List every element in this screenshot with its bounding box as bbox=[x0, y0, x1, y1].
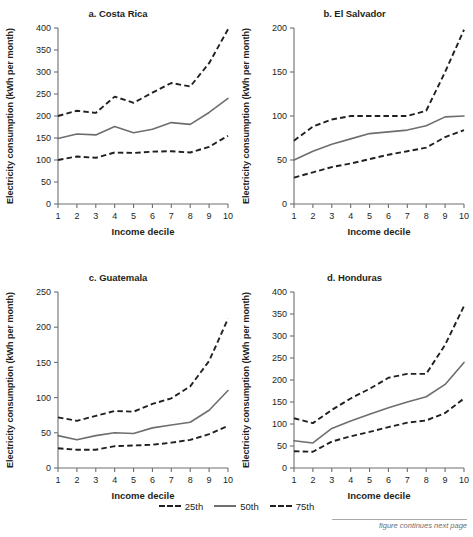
series-line-50th bbox=[294, 116, 464, 160]
y-axis-title: Electricity consumption (kWh per month) bbox=[5, 28, 15, 204]
y-tick-label: 0 bbox=[282, 463, 287, 473]
x-tick-label: 6 bbox=[386, 211, 391, 221]
x-tick-label: 9 bbox=[443, 475, 448, 485]
x-tick-label: 7 bbox=[405, 211, 410, 221]
x-tick-label: 4 bbox=[112, 475, 117, 485]
y-tick-label: 200 bbox=[272, 23, 287, 33]
series-line-75th bbox=[294, 30, 464, 141]
panel-plot: 05010015020025012345678910Income decileE… bbox=[0, 282, 236, 524]
y-tick-label: 0 bbox=[46, 199, 51, 209]
x-tick-label: 5 bbox=[367, 211, 372, 221]
x-tick-label: 4 bbox=[112, 211, 117, 221]
y-tick-label: 350 bbox=[272, 309, 287, 319]
footer-note: figure continues next page bbox=[0, 521, 467, 530]
y-tick-label: 150 bbox=[36, 358, 51, 368]
y-tick-label: 200 bbox=[36, 322, 51, 332]
legend-dash-line-icon bbox=[159, 505, 181, 507]
x-tick-label: 3 bbox=[329, 211, 334, 221]
y-tick-label: 100 bbox=[272, 419, 287, 429]
y-tick-label: 200 bbox=[36, 111, 51, 121]
y-tick-label: 50 bbox=[41, 428, 51, 438]
y-axis-title: Electricity consumption (kWh per month) bbox=[5, 292, 15, 468]
legend-item-50th: 50th bbox=[214, 501, 259, 512]
y-tick-label: 250 bbox=[36, 287, 51, 297]
x-tick-label: 6 bbox=[150, 211, 155, 221]
series-line-50th bbox=[58, 98, 228, 138]
chart-svg: 05010015020025030035040012345678910Incom… bbox=[236, 282, 472, 520]
x-tick-label: 10 bbox=[459, 211, 469, 221]
x-tick-label: 9 bbox=[207, 475, 212, 485]
y-tick-label: 50 bbox=[41, 177, 51, 187]
panel-el-salvador: b. El Salvador 05010015020012345678910In… bbox=[236, 0, 473, 264]
panel-plot: 05010015020012345678910Income decileElec… bbox=[236, 18, 472, 260]
legend-dash-line-icon bbox=[270, 505, 292, 507]
chart-svg: 05010015020025030035040012345678910Incom… bbox=[0, 18, 236, 256]
x-tick-label: 2 bbox=[74, 475, 79, 485]
x-tick-label: 10 bbox=[459, 475, 469, 485]
y-tick-label: 50 bbox=[277, 155, 287, 165]
x-tick-label: 10 bbox=[223, 475, 233, 485]
x-tick-label: 2 bbox=[74, 211, 79, 221]
x-tick-label: 8 bbox=[424, 211, 429, 221]
x-tick-label: 2 bbox=[310, 211, 315, 221]
footer-divider bbox=[332, 519, 467, 520]
x-tick-label: 6 bbox=[150, 475, 155, 485]
y-tick-label: 200 bbox=[272, 375, 287, 385]
series-line-75th bbox=[58, 29, 228, 116]
x-tick-label: 3 bbox=[93, 211, 98, 221]
x-tick-label: 7 bbox=[169, 211, 174, 221]
x-tick-label: 6 bbox=[386, 475, 391, 485]
y-tick-label: 50 bbox=[277, 441, 287, 451]
legend-item-75th: 75th bbox=[270, 501, 315, 512]
x-tick-label: 5 bbox=[131, 475, 136, 485]
x-tick-label: 8 bbox=[424, 475, 429, 485]
y-tick-label: 150 bbox=[36, 133, 51, 143]
x-tick-label: 7 bbox=[169, 475, 174, 485]
series-line-25th bbox=[294, 398, 464, 451]
y-tick-label: 0 bbox=[282, 199, 287, 209]
series-line-25th bbox=[294, 130, 464, 178]
series-line-50th bbox=[58, 391, 228, 440]
panel-honduras: d. Honduras 0501001502002503003504001234… bbox=[236, 264, 473, 500]
x-tick-label: 10 bbox=[223, 211, 233, 221]
x-tick-label: 1 bbox=[291, 475, 296, 485]
panel-grid: a. Costa Rica 05010015020025030035040012… bbox=[0, 0, 473, 500]
x-axis-title: Income decile bbox=[112, 226, 175, 237]
figure-root: a. Costa Rica 05010015020025030035040012… bbox=[0, 0, 473, 537]
x-axis-title: Income decile bbox=[348, 226, 411, 237]
y-tick-label: 100 bbox=[36, 393, 51, 403]
legend-label: 50th bbox=[240, 501, 259, 512]
chart-svg: 05010015020012345678910Income decileElec… bbox=[236, 18, 472, 256]
y-tick-label: 300 bbox=[272, 331, 287, 341]
y-tick-label: 250 bbox=[36, 89, 51, 99]
panel-plot: 05010015020025030035040012345678910Incom… bbox=[0, 18, 236, 260]
legend-solid-line-icon bbox=[214, 505, 236, 507]
x-tick-label: 8 bbox=[188, 475, 193, 485]
series-line-25th bbox=[58, 136, 228, 160]
x-tick-label: 1 bbox=[55, 211, 60, 221]
y-tick-label: 300 bbox=[36, 67, 51, 77]
x-tick-label: 9 bbox=[443, 211, 448, 221]
series-line-75th bbox=[294, 306, 464, 423]
x-tick-label: 2 bbox=[310, 475, 315, 485]
legend-label: 25th bbox=[185, 501, 204, 512]
x-tick-label: 1 bbox=[291, 211, 296, 221]
y-tick-label: 150 bbox=[272, 67, 287, 77]
y-tick-label: 150 bbox=[272, 397, 287, 407]
y-tick-label: 250 bbox=[272, 353, 287, 363]
x-tick-label: 4 bbox=[348, 211, 353, 221]
x-tick-label: 3 bbox=[329, 475, 334, 485]
x-tick-label: 4 bbox=[348, 475, 353, 485]
y-tick-label: 100 bbox=[272, 111, 287, 121]
y-tick-label: 0 bbox=[46, 463, 51, 473]
series-line-50th bbox=[294, 362, 464, 443]
y-axis-title: Electricity consumption (kWh per month) bbox=[241, 292, 251, 468]
panel-guatemala: c. Guatemala 05010015020025012345678910I… bbox=[0, 264, 236, 500]
x-tick-label: 5 bbox=[131, 211, 136, 221]
x-tick-label: 8 bbox=[188, 211, 193, 221]
y-tick-label: 400 bbox=[272, 287, 287, 297]
x-tick-label: 5 bbox=[367, 475, 372, 485]
legend: 25th 50th 75th bbox=[0, 495, 473, 517]
chart-svg: 05010015020025012345678910Income decileE… bbox=[0, 282, 236, 520]
panel-costa-rica: a. Costa Rica 05010015020025030035040012… bbox=[0, 0, 236, 264]
